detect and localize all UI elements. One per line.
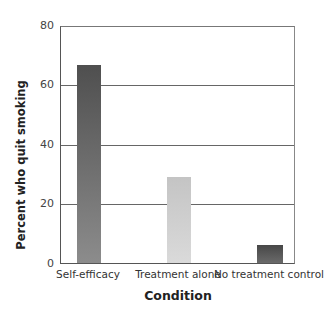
bar-self-efficacy [77,65,101,263]
x-tick-no-treatment-control: No treatment control [214,268,324,280]
y-tick-0: 0 [47,258,54,270]
x-tick-self-efficacy: Self-efficacy [56,268,120,280]
y-tick-80: 80 [40,20,54,32]
bar-no-treatment-control [257,245,283,263]
y-axis-label: Percent who quit smoking [14,80,28,250]
y-tick-40: 40 [40,139,54,151]
bar-treatment-alone [167,177,191,263]
y-tick-20: 20 [40,198,54,210]
plot-area [60,26,295,264]
x-tick-treatment-alone: Treatment alone [135,268,221,280]
y-tick-60: 60 [40,79,54,91]
x-axis-label: Condition [144,288,212,303]
